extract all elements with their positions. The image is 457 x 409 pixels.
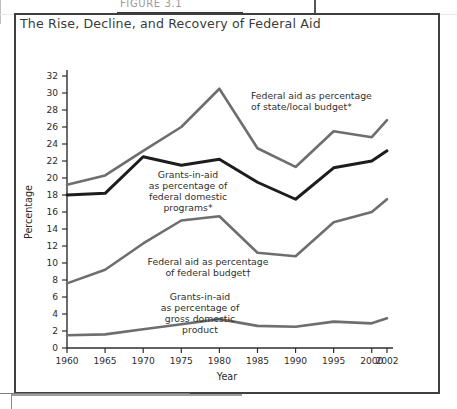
x-axis-tick-label: 1985 (246, 356, 269, 366)
annot-federal-domestic: Grants-in-aidas percentage offederal dom… (149, 169, 228, 213)
annot-state-local: Federal aid as percentageof state/local … (251, 90, 372, 112)
y-axis-tick-label: 32 (46, 71, 58, 81)
y-axis-title: Percentage (23, 185, 34, 239)
y-axis-tick-label: 22 (46, 156, 58, 166)
y-axis-tick-label: 10 (46, 258, 58, 268)
annot-gdp: Grants-in-aidas percentage ofgross domes… (161, 291, 240, 335)
x-axis-tick-label: 1980 (208, 356, 231, 366)
y-axis-tick-label: 24 (46, 139, 58, 149)
annot-federal-budget: Federal aid as percentageof federal budg… (148, 256, 269, 278)
x-axis-tick-label: 1970 (132, 356, 155, 366)
x-axis-tick-label: 1975 (170, 356, 193, 366)
page-root: FIGURE 3.1 The Rise, Decline, and Recove… (0, 0, 457, 409)
x-axis-tick-label: 1995 (322, 356, 345, 366)
x-axis-tick-label: 2002 (375, 356, 398, 366)
y-axis-tick-label: 8 (52, 275, 58, 285)
y-axis-tick-label: 20 (46, 173, 58, 183)
y-axis-tick-label: 26 (46, 122, 58, 132)
x-axis-tick-label: 1965 (94, 356, 117, 366)
y-axis-tick-label: 4 (52, 309, 58, 319)
x-axis-tick-label: 1960 (55, 356, 78, 366)
y-axis-tick-label: 12 (46, 241, 58, 251)
page-margin-rule-left (0, 0, 1, 24)
y-axis-tick-label: 28 (46, 105, 58, 115)
figure-caption-partial: FIGURE 3.1 (120, 0, 240, 10)
y-axis-tick-label: 6 (52, 292, 58, 302)
y-axis-tick-label: 18 (46, 190, 58, 200)
page-rule-bottom-secondary (12, 394, 242, 396)
y-axis-tick-label: 2 (52, 326, 58, 336)
x-axis-title: Year (216, 371, 237, 382)
x-axis-tick-label: 1990 (284, 356, 307, 366)
y-axis-tick-label: 16 (46, 207, 58, 217)
line-chart: 0246810121416182022242628303219601965197… (14, 13, 440, 394)
plot-area: 0246810121416182022242628303219601965197… (14, 13, 440, 394)
y-axis-tick-label: 14 (46, 224, 58, 234)
y-axis-tick-label: 0 (52, 343, 58, 353)
page-rule-vertical-bottom-left (11, 394, 12, 409)
y-axis-tick-label: 30 (46, 88, 58, 98)
